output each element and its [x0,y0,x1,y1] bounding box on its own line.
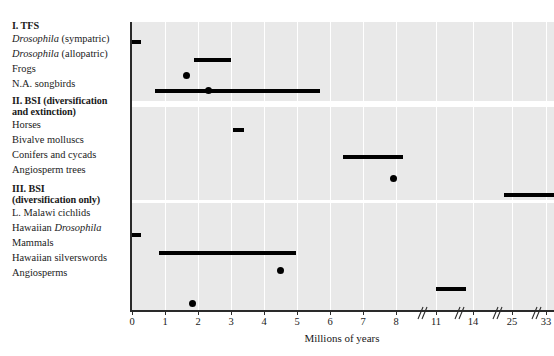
section-heading-bsi-div-ext-line2: and extinction) [0,106,128,117]
mark-angiosperm-trees [504,193,554,197]
axis-break-1 [415,305,429,321]
x-axis-title: Millions of years [130,332,554,344]
x-tick-7 [363,310,364,315]
gridline-14 [473,22,474,101]
gridline-2 [198,107,199,200]
gridline-11 [436,107,437,200]
row-label-frogs: Frogs [0,63,128,74]
x-tick-label-4: 4 [252,316,276,328]
panel-bsi-diversification-only [130,203,554,310]
gridline-1 [165,203,166,310]
gridline-25 [512,22,513,101]
gridline-8 [396,107,397,200]
x-tick-14 [473,310,474,315]
x-tick-11 [436,310,437,315]
gridline-11 [436,203,437,310]
x-tick-label-7: 7 [351,316,375,328]
gridline-33 [546,22,547,101]
gridline-33 [546,203,547,310]
gridline-7 [363,203,364,310]
section-heading-bsi-div-ext-line1: II. BSI (diversification [0,95,128,106]
x-tick-0 [132,310,133,315]
gridline-8 [396,203,397,310]
mark-horses [233,128,244,132]
row-label-na-songbirds: N.A. songbirds [0,78,128,89]
x-tick-label-5: 5 [285,316,309,328]
gridline-5 [297,203,298,310]
section-heading-tfs: I. TFS [0,20,128,31]
x-tick-label-2: 2 [186,316,210,328]
plot-area [130,22,554,310]
mark-na-songbirds [155,89,320,93]
row-label-drosophila-allopatric: Drosophila (allopatric) [0,48,128,59]
panel-tfs [130,22,554,101]
x-tick-3 [231,310,232,315]
row-label-mammals: Mammals [0,237,128,248]
gridline-4 [264,107,265,200]
mark-frogs [183,72,190,79]
x-tick-8 [396,310,397,315]
gridline-2 [198,203,199,310]
section-heading-bsi-div-only-line2: (diversification only) [0,194,128,205]
gridline-11 [436,22,437,101]
row-label-hawaiian-drosophila: Hawaiian Drosophila [0,222,128,233]
gridline-14 [473,203,474,310]
panel-bsi-diversification-extinction [130,107,554,200]
x-tick-label-0: 0 [120,316,144,328]
mark-mammals [277,267,284,274]
axis-break-3 [490,305,504,321]
x-tick-2 [198,310,199,315]
x-axis: 01234567811142533 Millions of years [130,310,554,356]
row-label-drosophila-sympatric: Drosophila (sympatric) [0,33,128,44]
x-tick-25 [512,310,513,315]
x-tick-4 [264,310,265,315]
gridline-3 [231,203,232,310]
gridline-6 [330,22,331,101]
mark-drosophila-allopatric [194,58,231,62]
gridline-14 [473,107,474,200]
x-tick-33 [546,310,547,315]
row-label-l-malawi-cichlids: L. Malawi cichlids [0,207,128,218]
mark-angiosperms [189,300,196,307]
gridline-33 [546,107,547,200]
row-label-angiosperms: Angiosperms [0,267,128,278]
row-label-hawaiian-silverswords: Hawaiian silverswords [0,252,128,263]
gridline-8 [396,22,397,101]
row-label-conifers-and-cycads: Conifers and cycads [0,149,128,160]
x-tick-5 [297,310,298,315]
gridline-7 [363,22,364,101]
x-tick-label-6: 6 [318,316,342,328]
speciation-duration-figure: I. TFS Drosophila (sympatric) Drosophila… [0,0,554,356]
mark-l-malawi-cichlids [132,233,141,237]
gridline-1 [165,107,166,200]
x-tick-label-3: 3 [219,316,243,328]
row-label-horses: Horses [0,119,128,130]
gridline-25 [512,203,513,310]
gridline-3 [231,107,232,200]
mark-hawaiian-silverswords [436,287,466,291]
category-label-column: I. TFS Drosophila (sympatric) Drosophila… [0,0,130,320]
gridline-7 [363,107,364,200]
x-tick-1 [165,310,166,315]
gridline-25 [512,107,513,200]
axis-break-2 [452,305,466,321]
x-tick-label-8: 8 [384,316,408,328]
mark-conifers-and-cycads [390,175,397,182]
gridline-6 [330,203,331,310]
mark-drosophila-sympatric [132,40,141,44]
mark-hawaiian-drosophila [159,251,296,255]
axis-break-4 [529,305,543,321]
section-heading-bsi-div-only-line1: III. BSI [0,183,128,194]
row-label-bivalve-molluscs: Bivalve molluscs [0,134,128,145]
gridline-6 [330,107,331,200]
x-tick-6 [330,310,331,315]
gridline-5 [297,107,298,200]
y-axis-line [130,22,132,311]
mark-na-songbirds-point [205,87,212,94]
row-label-angiosperm-trees: Angiosperm trees [0,164,128,175]
x-tick-label-1: 1 [153,316,177,328]
mark-bivalve-molluscs [343,155,403,159]
gridline-4 [264,203,265,310]
